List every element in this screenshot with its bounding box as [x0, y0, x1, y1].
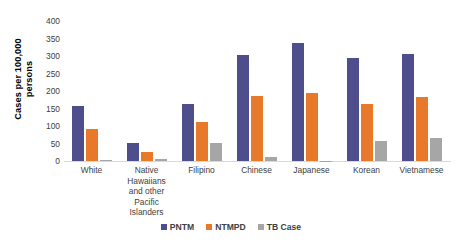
bar-pntm[interactable]	[292, 43, 304, 161]
bar-group	[119, 21, 174, 161]
x-axis-category-label: Korean	[339, 165, 394, 176]
y-axis-tick-label: 0	[36, 156, 60, 166]
x-axis-category-label: Vietnamese	[394, 165, 449, 176]
bar-group	[64, 21, 119, 161]
y-axis-tick-label: 300	[36, 51, 60, 61]
bar-tb-case[interactable]	[100, 160, 112, 161]
x-axis-category-label: White	[64, 165, 119, 176]
chart-legend: PNTMNTMPDTB Case	[0, 222, 462, 232]
legend-swatch-icon	[206, 224, 212, 230]
y-axis-tick-label: 350	[36, 34, 60, 44]
bar-pntm[interactable]	[182, 104, 194, 161]
legend-label: NTMPD	[215, 222, 246, 232]
y-axis-tick-label: 250	[36, 69, 60, 79]
bar-ntmpd[interactable]	[196, 122, 208, 161]
bar-pntm[interactable]	[347, 58, 359, 161]
bar-ntmpd[interactable]	[251, 96, 263, 161]
bar-chart: Cases per 100,000 persons 40035030025020…	[0, 0, 462, 245]
x-axis-category-labels: WhiteNativeHawaiiansand otherPacificIsla…	[64, 165, 449, 215]
bar-group	[174, 21, 229, 161]
x-axis-line	[64, 161, 451, 162]
bar-pntm[interactable]	[127, 143, 139, 161]
bar-ntmpd[interactable]	[306, 93, 318, 161]
bar-tb-case[interactable]	[375, 141, 387, 161]
y-axis-tick-label: 150	[36, 104, 60, 114]
bar-group	[229, 21, 284, 161]
bar-group	[339, 21, 394, 161]
bar-group	[394, 21, 449, 161]
legend-item-tb-case[interactable]: TB Case	[258, 222, 301, 232]
y-axis-tick-label: 200	[36, 86, 60, 96]
bar-ntmpd[interactable]	[141, 152, 153, 161]
bar-tb-case[interactable]	[155, 159, 167, 161]
legend-label: TB Case	[267, 222, 301, 232]
bar-pntm[interactable]	[237, 55, 249, 161]
legend-item-ntmpd[interactable]: NTMPD	[206, 222, 246, 232]
y-axis-tick-labels: 400350300250200150100500	[36, 21, 60, 161]
bar-ntmpd[interactable]	[86, 129, 98, 161]
y-axis-title-line-1: Cases per 100,000	[13, 38, 23, 119]
y-axis-tick-label: 100	[36, 121, 60, 131]
legend-swatch-icon	[161, 224, 167, 230]
legend-label: PNTM	[170, 222, 194, 232]
bar-group	[284, 21, 339, 161]
y-axis-tick-label: 400	[36, 16, 60, 26]
y-axis-title-line-2: persons	[24, 61, 34, 97]
bar-tb-case[interactable]	[430, 138, 442, 161]
x-axis-category-label: Filipino	[174, 165, 229, 176]
bar-tb-case[interactable]	[210, 143, 222, 161]
x-axis-category-label: Japanese	[284, 165, 339, 176]
bar-ntmpd[interactable]	[416, 97, 428, 161]
bar-pntm[interactable]	[402, 54, 414, 161]
bar-pntm[interactable]	[72, 106, 84, 161]
bar-tb-case[interactable]	[265, 157, 277, 161]
y-axis-tick-label: 50	[36, 139, 60, 149]
x-axis-category-label: NativeHawaiiansand otherPacificIslanders	[119, 165, 174, 218]
legend-item-pntm[interactable]: PNTM	[161, 222, 194, 232]
bar-ntmpd[interactable]	[361, 104, 373, 161]
x-axis-category-label: Chinese	[229, 165, 284, 176]
legend-swatch-icon	[258, 224, 264, 230]
plot-area	[64, 21, 449, 161]
